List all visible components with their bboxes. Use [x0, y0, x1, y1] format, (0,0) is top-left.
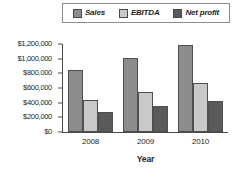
y-axis-tick-label: $800,000: [0, 70, 52, 78]
bar-ebitda-2009: [138, 92, 153, 132]
legend-entry-net-profit: Net profit: [173, 9, 219, 18]
x-axis-tick-label: 2009: [137, 137, 154, 146]
x-axis-line: [62, 132, 228, 133]
legend-swatch-sales: [73, 9, 82, 18]
y-axis-tick-label: $400,000: [0, 99, 52, 107]
legend-swatch-ebitda: [119, 9, 128, 18]
bar-sales-2010: [178, 45, 193, 132]
plot-area: $0$200,000$400,000$600,000$800,000$1,000…: [0, 30, 239, 177]
bar-group: [118, 44, 173, 132]
legend-label-sales: Sales: [85, 9, 105, 17]
bar-sales-2008: [68, 70, 83, 132]
y-axis-tick-label: $1,200,000: [0, 40, 52, 48]
bar-net-profit-2009: [153, 106, 168, 132]
bar-ebitda-2008: [83, 100, 98, 132]
legend-entry-ebitda: EBITDA: [119, 9, 160, 18]
y-axis-tick-labels: $0$200,000$400,000$600,000$800,000$1,000…: [0, 44, 52, 132]
bar-sales-2009: [123, 58, 138, 132]
bars-container: [63, 44, 228, 132]
bar-group: [63, 44, 118, 132]
bar-ebitda-2010: [193, 83, 208, 132]
legend-label-net-profit: Net profit: [185, 9, 219, 17]
x-axis-tick-label: 2008: [82, 137, 99, 146]
bar-net-profit-2010: [208, 101, 223, 132]
legend-label-ebitda: EBITDA: [131, 9, 160, 17]
y-axis-tick-label: $1,000,000: [0, 55, 52, 63]
x-axis-tick-label: 2010: [192, 137, 209, 146]
bar-group: [173, 44, 228, 132]
y-axis-tick-label: $200,000: [0, 114, 52, 122]
y-axis-tick-label: $0: [0, 128, 52, 136]
legend-swatch-net-profit: [173, 9, 182, 18]
x-axis-tick-labels: 200820092010: [63, 137, 228, 149]
chart-legend: Sales EBITDA Net profit: [62, 3, 230, 23]
bar-chart: Sales EBITDA Net profit $0$200,000$400,0…: [0, 0, 239, 177]
legend-entry-sales: Sales: [73, 9, 105, 18]
x-axis-title: Year: [63, 154, 228, 164]
y-axis-tick-label: $600,000: [0, 84, 52, 92]
bar-net-profit-2008: [98, 112, 113, 132]
